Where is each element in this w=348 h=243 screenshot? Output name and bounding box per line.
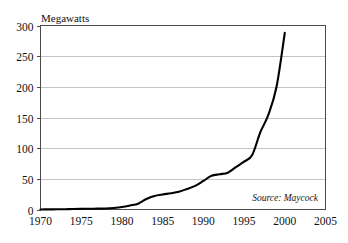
chart-figure: Megawatts 050100150200250300 19701975198… bbox=[0, 0, 348, 243]
y-tick-label-150: 150 bbox=[16, 113, 34, 125]
x-tick-label-1980: 1980 bbox=[110, 215, 133, 227]
x-tick-label-1995: 1995 bbox=[233, 215, 256, 227]
source-annotation: Source: Maycock bbox=[252, 193, 319, 203]
y-tick-label-100: 100 bbox=[16, 143, 34, 155]
x-tick-label-1975: 1975 bbox=[70, 215, 93, 227]
megawatts-line-chart: Megawatts 050100150200250300 19701975198… bbox=[0, 0, 348, 243]
x-tick-label-2005: 2005 bbox=[314, 215, 337, 227]
y-tick-label-250: 250 bbox=[16, 51, 34, 63]
x-tick-label-1970: 1970 bbox=[29, 215, 52, 227]
y-tick-label-300: 300 bbox=[16, 21, 34, 33]
y-tick-label-50: 50 bbox=[22, 174, 34, 186]
x-tick-label-1990: 1990 bbox=[192, 215, 215, 227]
y-tick-label-200: 200 bbox=[16, 82, 34, 94]
chart-background bbox=[0, 0, 348, 243]
x-tick-label-2000: 2000 bbox=[273, 215, 296, 227]
chart-title: Megawatts bbox=[41, 12, 89, 24]
x-tick-label-1985: 1985 bbox=[151, 215, 174, 227]
